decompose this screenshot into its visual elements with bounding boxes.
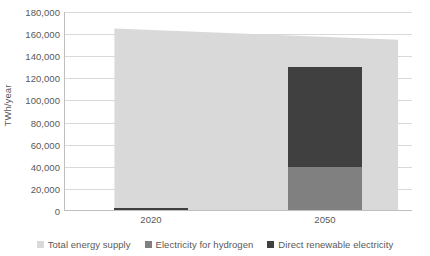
y-axis-tick-label: 100,000 <box>25 95 60 106</box>
chart-legend: Total energy supplyElectricity for hydro… <box>0 236 430 252</box>
x-axis-line <box>64 210 412 211</box>
y-axis-tick-label: 80,000 <box>31 117 60 128</box>
x-axis-tick-label: 2020 <box>140 214 161 225</box>
legend-item[interactable]: Electricity for hydrogen <box>145 239 254 250</box>
legend-swatch-icon <box>267 241 274 248</box>
legend-item[interactable]: Direct renewable electricity <box>267 239 393 250</box>
legend-label: Direct renewable electricity <box>278 239 393 250</box>
y-axis-line <box>64 12 65 211</box>
legend-item[interactable]: Total energy supply <box>37 239 131 250</box>
y-axis-tick-label: 40,000 <box>31 161 60 172</box>
y-axis-title-label: TWh/year <box>3 85 14 127</box>
x-axis-tick-labels: 20202050 <box>64 214 412 230</box>
y-axis-tick-label: 180,000 <box>25 7 60 18</box>
bar-segment <box>288 67 361 167</box>
y-axis-tick-label: 60,000 <box>31 139 60 150</box>
bar-segment <box>288 167 361 211</box>
y-axis-tick-label: 0 <box>55 206 60 217</box>
chart-container: TWh/year 180,000160,000140,000120,000100… <box>0 0 430 256</box>
y-axis-tick-label: 140,000 <box>25 51 60 62</box>
x-axis-tick-label: 2050 <box>314 214 335 225</box>
y-axis-tick-label: 160,000 <box>25 29 60 40</box>
legend-swatch-icon <box>37 241 44 248</box>
y-axis-tick-label: 20,000 <box>31 183 60 194</box>
legend-label: Total energy supply <box>48 239 131 250</box>
y-axis-tick-labels: 180,000160,000140,000120,000100,00080,00… <box>16 0 64 222</box>
legend-swatch-icon <box>145 241 152 248</box>
plot-area <box>64 12 412 211</box>
y-axis-tick-label: 120,000 <box>25 73 60 84</box>
y-axis-title: TWh/year <box>0 0 16 211</box>
legend-label: Electricity for hydrogen <box>156 239 254 250</box>
